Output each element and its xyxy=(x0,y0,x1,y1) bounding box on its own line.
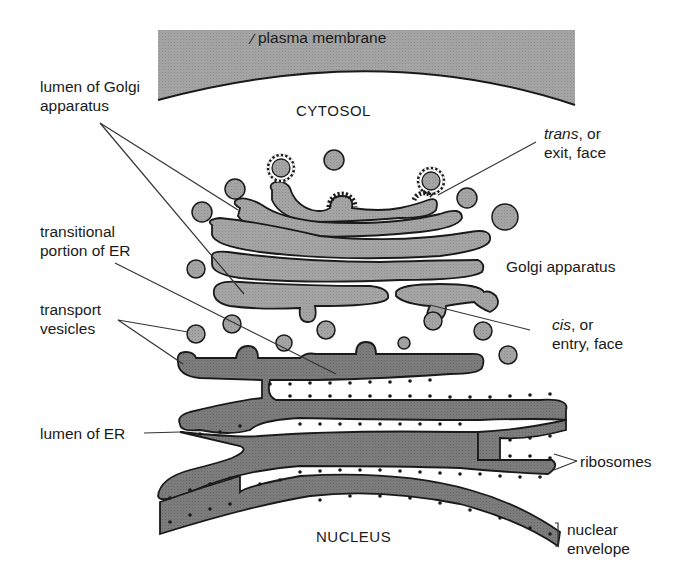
label-nuclear-line1: nuclear xyxy=(567,520,630,539)
label-transport-line2: vesicles xyxy=(40,319,101,338)
label-transport-vesicles: transport vesicles xyxy=(40,300,101,338)
label-transport-line1: transport xyxy=(40,300,101,319)
label-lumen-golgi-line2: apparatus xyxy=(40,96,140,115)
label-nuclear-line2: envelope xyxy=(567,539,630,558)
endoplasmic-reticulum xyxy=(158,342,566,546)
label-cis-face: cis, or entry, face xyxy=(552,315,623,353)
label-lumen-golgi-line1: lumen of Golgi xyxy=(40,77,140,96)
label-trans-line2: exit, face xyxy=(544,143,606,162)
label-cis-italic: cis xyxy=(552,316,571,333)
label-cytosol: CYTOSOL xyxy=(296,101,371,120)
label-lumen-er: lumen of ER xyxy=(40,424,125,443)
label-golgi-apparatus: Golgi apparatus xyxy=(506,257,615,276)
label-plasma-membrane: plasma membrane xyxy=(258,28,386,47)
label-nuclear-envelope: nuclear envelope xyxy=(567,520,630,558)
label-trans-rest: , or xyxy=(578,125,600,142)
label-lumen-golgi: lumen of Golgi apparatus xyxy=(40,77,140,115)
label-transitional-er: transitional portion of ER xyxy=(40,222,130,260)
label-cis-rest: , or xyxy=(571,316,593,333)
label-ribosomes: ribosomes xyxy=(580,452,652,471)
label-nucleus: NUCLEUS xyxy=(316,527,391,546)
label-cis-line2: entry, face xyxy=(552,334,623,353)
label-trans-face: trans, or exit, face xyxy=(544,124,606,162)
label-transitional-line1: transitional xyxy=(40,222,130,241)
label-transitional-line2: portion of ER xyxy=(40,241,130,260)
label-trans-italic: trans xyxy=(544,125,578,142)
